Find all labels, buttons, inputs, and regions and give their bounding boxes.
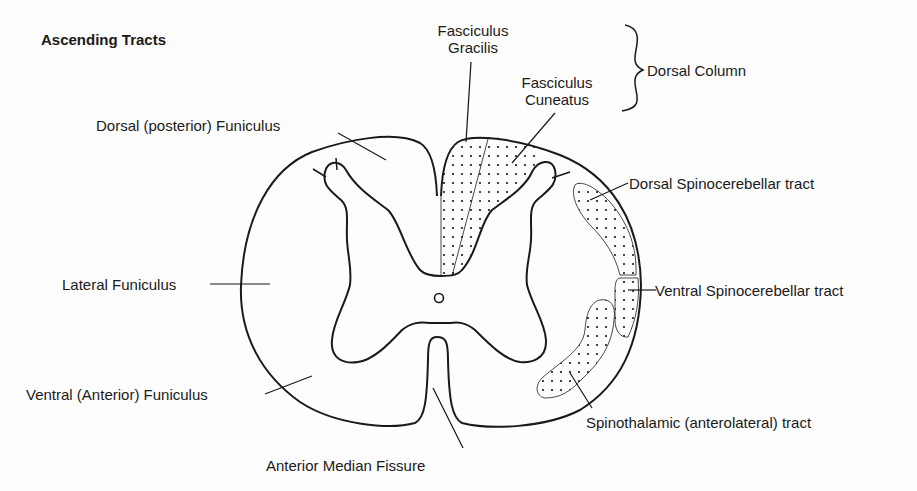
label-line: Fasciculus [428,22,518,39]
label-dorsal-column: Dorsal Column [647,62,746,79]
label-line: Gracilis [428,39,518,56]
leader-gracilis [466,62,471,142]
label-anterior-median-fissure: Anterior Median Fissure [266,457,425,474]
ventral-spinocerebellar-region [615,278,639,337]
label-dorsal-funiculus: Dorsal (posterior) Funiculus [96,117,280,134]
label-spinothalamic: Spinothalamic (anterolateral) tract [586,414,811,431]
leader-ventral-funiculus [265,376,312,394]
label-lateral-funiculus: Lateral Funiculus [62,276,176,293]
label-dorsal-spinocerebellar: Dorsal Spinocerebellar tract [629,175,814,192]
central-canal [435,294,444,303]
label-fasciculus-cuneatus: Fasciculus Cuneatus [512,74,602,108]
label-ventral-funiculus: Ventral (Anterior) Funiculus [26,386,208,403]
label-line: Fasciculus [512,74,602,91]
label-ventral-spinocerebellar: Ventral Spinocerebellar tract [655,282,843,299]
dorsal-spinocerebellar-region [573,183,636,275]
label-line: Cuneatus [512,91,602,108]
leader-fissure [433,388,463,448]
label-fasciculus-gracilis: Fasciculus Gracilis [428,22,518,56]
gray-matter [324,162,555,363]
cord-outline [241,137,641,427]
dorsal-column-brace [622,25,643,111]
diagram-title: Ascending Tracts [41,31,166,48]
